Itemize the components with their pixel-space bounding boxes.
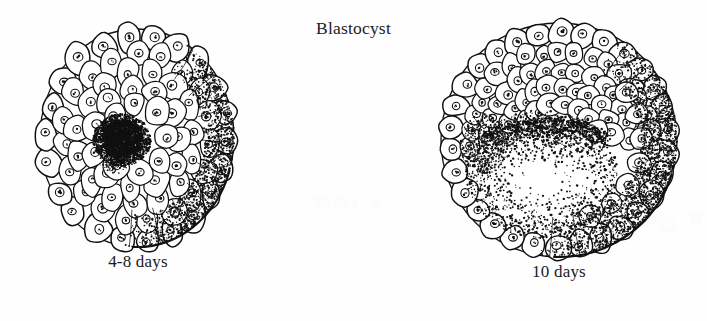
ghost-mark [372,196,380,206]
cell [145,96,169,125]
blastocyst-4-8-days-drawing [20,14,260,262]
ghost-mark [333,196,347,209]
figure-blastocyst-10-days [428,8,692,270]
cell [155,125,178,149]
illustration-page: Blastocyst 4-8 days 10 days [0,0,707,321]
caption-10-days: 10 days [440,262,678,282]
cell [48,183,71,205]
ghost-mark [314,195,330,207]
blastocyst-10-days-drawing [428,8,692,270]
ghost-mark [352,198,358,210]
caption-4-8-days: 4-8 days [40,252,236,272]
figure-blastocyst-4-8-days [20,14,260,262]
